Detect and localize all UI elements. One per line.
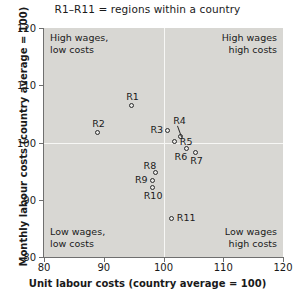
quadrant-label-bottom-right: Low wages high costs [225, 226, 277, 249]
x-tick-label-90: 90 [84, 262, 124, 273]
x-tick-label-120: 120 [263, 262, 295, 273]
y-tick-100 [39, 143, 44, 144]
x-tick-label-80: 80 [24, 262, 64, 273]
y-tick-90 [39, 200, 44, 201]
gridline-horizontal-100 [44, 143, 283, 144]
quadrant-label-top-left: High wages, low costs [50, 32, 108, 55]
data-point-r7 [193, 150, 198, 155]
quadrant-label-bottom-left: Low wages, low costs [50, 226, 105, 249]
data-point-label-r2: R2 [92, 119, 105, 129]
data-point-r9 [150, 178, 155, 183]
data-point-r1 [129, 103, 134, 108]
quadrant-label-top-right: High wages high costs [222, 32, 277, 55]
y-axis-title: Monthly labour costs (country average = … [18, 17, 29, 267]
y-tick-110 [39, 85, 44, 86]
data-point-r11 [169, 216, 174, 221]
data-point-label-r11: R11 [177, 213, 196, 223]
x-tick-label-100: 100 [144, 262, 184, 273]
data-point-r6 [184, 146, 189, 151]
data-point-label-r9: R9 [135, 175, 148, 185]
data-point-r8 [153, 170, 158, 175]
data-point-label-r3: R3 [150, 125, 163, 135]
data-point-label-r8: R8 [144, 161, 157, 171]
y-tick-120 [39, 28, 44, 29]
data-point-label-r4: R4 [173, 116, 186, 126]
data-point-label-r10: R10 [144, 191, 163, 201]
data-point-label-r1: R1 [126, 92, 139, 102]
data-point-r2 [95, 130, 100, 135]
scatter-chart: R1–R11 = regions within a country High w… [0, 0, 295, 297]
data-point-r10 [150, 185, 155, 190]
chart-title: R1–R11 = regions within a country [0, 3, 295, 15]
data-point-label-r7: R7 [190, 156, 203, 166]
x-tick-label-110: 110 [203, 262, 243, 273]
x-axis-title: Unit labour costs (country average = 100… [0, 278, 295, 289]
data-point-r3 [165, 128, 170, 133]
plot-area: High wages, low costs High wages high co… [44, 28, 283, 257]
data-point-label-r6: R6 [175, 152, 188, 162]
